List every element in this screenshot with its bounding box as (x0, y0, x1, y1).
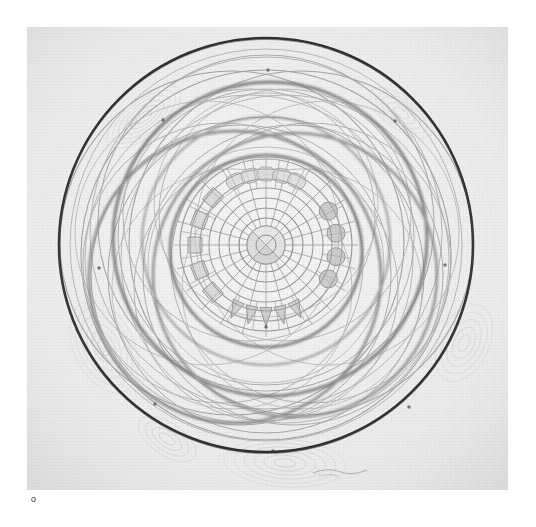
page-root: o (0, 0, 536, 527)
plate-vignette (27, 27, 508, 490)
mandala-drawing (27, 27, 508, 490)
scanned-drawing-plate (27, 27, 508, 490)
plate-caption: o (31, 494, 36, 504)
